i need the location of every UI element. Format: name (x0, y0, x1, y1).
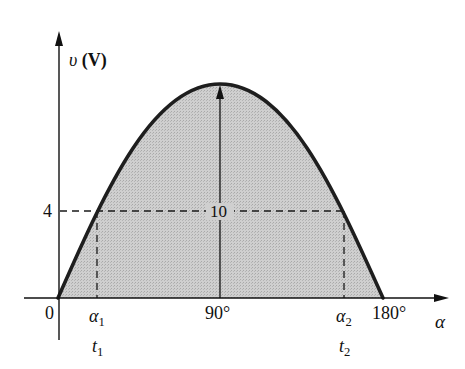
x-axis-arrow-icon (434, 294, 449, 302)
origin-label: 0 (45, 304, 54, 322)
y-axis-label-variable: υ (69, 50, 77, 70)
alpha2-subscript: 2 (345, 315, 351, 329)
alpha2-label: α2 (336, 307, 352, 328)
t1-label: t1 (92, 337, 103, 358)
t1-subscript: 1 (97, 345, 103, 359)
y-axis-label-unit: (V) (82, 50, 107, 70)
tick-90-label: 90° (205, 304, 230, 322)
alpha1-subscript: 1 (98, 315, 104, 329)
t2-subscript: 2 (344, 345, 350, 359)
t2-label: t2 (339, 337, 350, 358)
alpha1-label: α1 (89, 307, 105, 328)
x-axis-label: α (435, 312, 445, 331)
y-axis-arrow-icon (55, 31, 63, 46)
y-axis-label: υ (V) (69, 51, 107, 69)
tick-180-label: 180° (372, 304, 406, 322)
peak-value-label: 10 (210, 203, 227, 220)
level-4-label: 4 (43, 202, 52, 220)
